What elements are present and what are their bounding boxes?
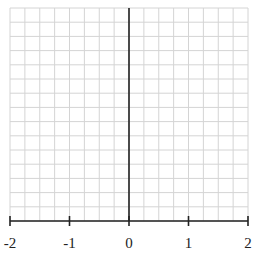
x-tick-label: -2 — [4, 235, 17, 251]
x-axis-labels: -2-1012 — [4, 235, 252, 251]
x-tick-label: -1 — [63, 235, 76, 251]
x-tick-label: 0 — [125, 235, 133, 251]
coordinate-grid: -2-1012 — [0, 0, 258, 256]
x-tick-label: 1 — [185, 235, 193, 251]
x-tick-label: 2 — [244, 235, 252, 251]
